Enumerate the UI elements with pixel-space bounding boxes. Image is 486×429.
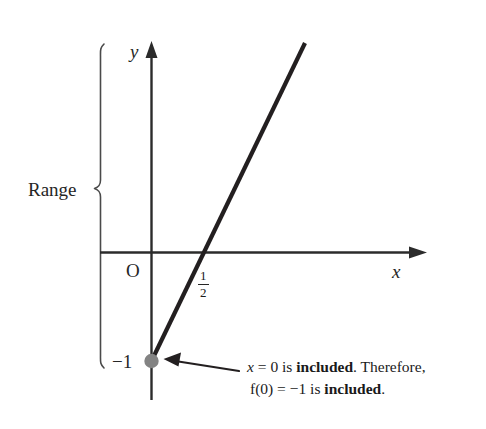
x-intercept-fraction: 1 2 [198, 269, 209, 299]
fraction-denominator: 2 [198, 286, 209, 300]
callout-line-2-value: −1 [290, 380, 307, 397]
range-label: Range [28, 180, 77, 199]
callout-line-2-bold: included [324, 380, 381, 397]
x-axis-label: x [392, 262, 400, 281]
origin-label: O [126, 261, 140, 280]
y-axis-label: y [130, 42, 138, 61]
callout-line-2: f(0) = −1 is included. [250, 378, 385, 400]
callout-line-2-mid: is [306, 380, 324, 397]
callout-line-1-mid: = 0 is [254, 358, 296, 375]
callout-line-1-post: . Therefore, [353, 358, 425, 375]
callout-line-2-pre: f(0) = [250, 380, 290, 397]
range-brace-icon [95, 44, 105, 368]
closed-endpoint-dot [144, 354, 158, 368]
fraction-numerator: 1 [198, 269, 209, 283]
callout-line-1-bold: included [296, 358, 353, 375]
callout-arrow-icon [164, 353, 240, 372]
callout-variable-x: x [247, 358, 254, 375]
x-axis-arrowhead-icon [409, 247, 427, 259]
function-line [152, 43, 306, 361]
callout-line-2-post: . [381, 380, 385, 397]
y-intercept-label: −1 [112, 352, 132, 371]
y-axis-arrowhead-icon [146, 41, 158, 58]
callout-line-1: x = 0 is included. Therefore, [247, 356, 426, 378]
function-graph-figure: y x O Range −1 1 2 x = 0 is included. Th… [0, 0, 486, 429]
